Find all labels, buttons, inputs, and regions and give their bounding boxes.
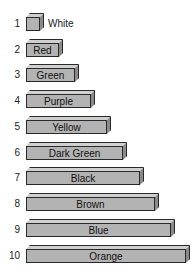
rod-label: Red — [26, 43, 59, 57]
rod-number: 9 — [0, 223, 20, 237]
rod-bar-brown: Brown — [26, 197, 155, 211]
rod-number: 5 — [0, 120, 20, 134]
rod-bar-purple: Purple — [26, 94, 91, 108]
rod-number: 1 — [0, 17, 20, 31]
rod-bar-dark-green: Dark Green — [26, 146, 123, 160]
rod-row-8: 8 Brown — [0, 193, 196, 213]
rod-bar-white — [26, 17, 40, 31]
rod-label: Brown — [26, 197, 155, 211]
rod-label: Yellow — [26, 120, 107, 134]
rod-number: 3 — [0, 68, 20, 82]
rod-number: 8 — [0, 197, 20, 211]
rod-bar-orange: Orange — [26, 249, 186, 263]
rod-label: White — [48, 17, 74, 31]
rod-number: 4 — [0, 94, 20, 108]
rod-row-2: 2 Red — [0, 39, 196, 59]
rod-bar-red: Red — [26, 43, 59, 57]
rod-number: 6 — [0, 146, 20, 160]
rod-number: 7 — [0, 171, 20, 185]
rod-row-6: 6 Dark Green — [0, 142, 196, 162]
rod-label: Blue — [26, 223, 171, 237]
rod-row-7: 7 Black — [0, 167, 196, 187]
rod-bar-black: Black — [26, 171, 140, 185]
rod-row-1: 1 White — [0, 13, 196, 33]
rod-label: Green — [26, 68, 75, 82]
rod-row-3: 3 Green — [0, 64, 196, 84]
rod-bar-green: Green — [26, 68, 75, 82]
rod-row-5: 5 Yellow — [0, 116, 196, 136]
rod-row-10: 10 Orange — [0, 245, 196, 265]
rod-number: 10 — [0, 249, 20, 263]
rod-label: Black — [26, 171, 140, 185]
rod-bar-yellow: Yellow — [26, 120, 107, 134]
rod-label: Orange — [26, 249, 186, 263]
rod-row-4: 4 Purple — [0, 90, 196, 110]
rod-label: Purple — [26, 94, 91, 108]
rod-row-9: 9 Blue — [0, 219, 196, 239]
rod-number: 2 — [0, 43, 20, 57]
rod-bar-blue: Blue — [26, 223, 171, 237]
rod-label: Dark Green — [26, 146, 123, 160]
